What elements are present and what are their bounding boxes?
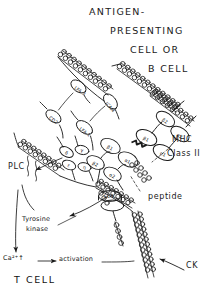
label-peptide: peptide xyxy=(148,193,183,201)
header-line-2: PRESENTING xyxy=(110,26,184,36)
label-kinase: kinase xyxy=(26,226,48,233)
label-mhc-line2: Class II xyxy=(167,150,200,158)
arrow-to-calcium xyxy=(16,190,18,252)
label-mhc-line1: MHC xyxy=(172,136,192,144)
glycan-chain-right xyxy=(130,161,152,183)
label-ck: CK xyxy=(186,262,198,270)
figure-canvas: LFA-3 CD2 ICAM LFA-1 β2 α2 β1 α1 β1 α1 β… xyxy=(0,0,210,295)
tcell-membrane-left xyxy=(18,139,64,176)
label-tcr-beta1: β1 xyxy=(106,144,114,151)
label-icam: ICAM xyxy=(104,101,115,113)
arrow-to-ck xyxy=(160,259,184,270)
label-cd3-epsilon: ε xyxy=(67,163,72,169)
leader-tyrosine-kinase xyxy=(58,216,76,225)
label-tcr-beta2: β2 xyxy=(91,161,99,168)
label-tyrosine: Tyrosine xyxy=(22,216,50,223)
label-activation: activation xyxy=(59,256,93,263)
label-calcium: Ca²⁺↑ xyxy=(3,255,24,262)
header-line-1: ANTIGEN- xyxy=(89,7,146,17)
header-line-3: CELL OR xyxy=(130,45,179,55)
label-mhc-beta1: β1 xyxy=(142,136,150,143)
label-plc: PLC xyxy=(8,163,25,171)
line-activation-to-membrane xyxy=(102,261,134,262)
label-lfa1: LFA-1 xyxy=(78,126,91,137)
label-cd3-eta: η xyxy=(83,165,87,171)
peptide-zigzag xyxy=(132,141,147,147)
label-cd3-delta: δ xyxy=(64,150,69,156)
label-cd2: CD2 xyxy=(48,115,59,125)
label-tcr-alpha2: α2 xyxy=(108,172,116,179)
cd4-stalk-glycans xyxy=(114,222,123,246)
label-t-cell: T CELL xyxy=(14,275,56,285)
label-mhc-alpha1: α1 xyxy=(159,151,167,158)
label-cd3-gamma: γ xyxy=(80,148,84,154)
label-cd4: CD4 xyxy=(104,193,115,199)
cd3-chains xyxy=(57,136,93,181)
header-line-4: B CELL xyxy=(148,64,189,74)
leader-peptide-label xyxy=(130,175,140,191)
tcell-membrane-right xyxy=(132,211,156,278)
cd3-cytoplasmic-tails xyxy=(27,156,36,181)
